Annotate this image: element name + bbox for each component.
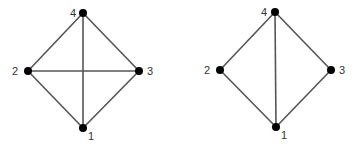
node-label-2: 2 <box>204 64 210 76</box>
edges-left <box>28 13 139 128</box>
node-label-4: 4 <box>70 7 76 19</box>
edge-4-1 <box>275 12 276 127</box>
edges-right <box>220 12 331 127</box>
edge-4-2 <box>28 13 83 71</box>
edge-2-1 <box>28 71 83 128</box>
graph-right: 1234 <box>204 6 345 141</box>
node-label-4: 4 <box>261 6 267 18</box>
node-2 <box>24 67 32 75</box>
node-label-2: 2 <box>12 65 18 77</box>
edge-4-3 <box>83 13 139 71</box>
edge-2-1 <box>220 70 276 127</box>
edge-4-2 <box>220 12 275 70</box>
node-label-3: 3 <box>147 65 153 77</box>
graph-diagram: 1234 1234 <box>0 0 357 144</box>
node-1 <box>272 123 280 131</box>
node-4 <box>271 8 279 16</box>
edge-3-1 <box>276 70 331 127</box>
node-label-3: 3 <box>339 64 345 76</box>
node-label-1: 1 <box>281 129 287 141</box>
edge-4-3 <box>275 12 331 70</box>
node-3 <box>327 66 335 74</box>
graph-left: 1234 <box>12 7 153 142</box>
edge-3-1 <box>83 71 139 128</box>
node-label-1: 1 <box>88 130 94 142</box>
node-4 <box>79 9 87 17</box>
node-1 <box>79 124 87 132</box>
node-3 <box>135 67 143 75</box>
node-2 <box>216 66 224 74</box>
